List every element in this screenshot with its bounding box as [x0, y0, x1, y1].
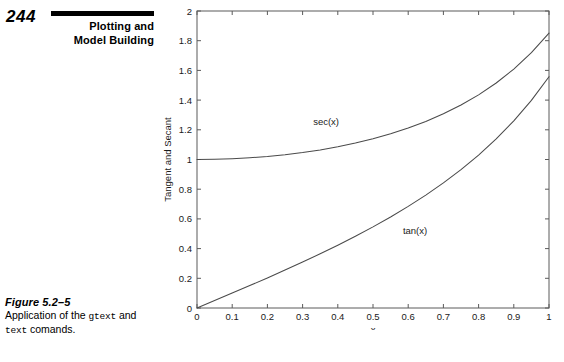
x-tick-label: 0.3 [296, 311, 309, 322]
x-tick-label: 1 [546, 311, 551, 322]
curve-secx [197, 33, 549, 159]
y-axis-ticks [197, 11, 549, 308]
y-tick-label: 1 [187, 154, 192, 165]
caption-code-gtext: gtext [88, 311, 116, 322]
figure-caption: Figure 5.2–5 Application of the gtext an… [5, 296, 155, 338]
plot-axes [197, 11, 549, 308]
y-tick-label: 2 [187, 6, 192, 17]
figure-caption-body: Application of the gtext and text comand… [5, 309, 155, 338]
x-tick-label: 0.8 [472, 311, 485, 322]
y-tick-label: 0 [187, 303, 192, 314]
caption-text-3: comands. [27, 323, 75, 335]
plot-annotations: sec(x)tan(x) [313, 116, 427, 236]
curve-tanx [197, 77, 549, 308]
x-tick-label: 0.2 [261, 311, 274, 322]
page-number: 244 [6, 8, 36, 25]
plot-svg: 00.10.20.30.40.50.60.70.80.91 00.20.40.6… [160, 0, 564, 330]
x-tick-label: 0.9 [507, 311, 520, 322]
caption-code-text: text [5, 325, 27, 336]
x-tick-label: 0 [194, 311, 199, 322]
y-tick-label: 0.4 [179, 243, 192, 254]
x-tick-label: 0.7 [437, 311, 450, 322]
running-head-line-2: Model Building [40, 33, 154, 47]
figure-plot: 00.10.20.30.40.50.60.70.80.91 00.20.40.6… [160, 0, 564, 330]
y-tick-label: 1.2 [179, 124, 192, 135]
running-head: Plotting and Model Building [40, 19, 154, 47]
running-head-line-1: Plotting and [40, 19, 154, 33]
plot-curves [197, 33, 549, 308]
header-rule [51, 11, 154, 16]
x-tick-label: 0.5 [366, 311, 379, 322]
x-axis-title: x [371, 324, 376, 330]
y-axis-title: Tangent and Secant [162, 117, 173, 202]
y-tick-label: 0.2 [179, 273, 192, 284]
y-tick-label: 1.4 [179, 95, 192, 106]
x-axis-tick-labels: 00.10.20.30.40.50.60.70.80.91 [194, 311, 551, 322]
curve-label-secx: sec(x) [313, 116, 339, 127]
x-tick-label: 0.4 [331, 311, 344, 322]
figure-caption-title: Figure 5.2–5 [5, 296, 155, 309]
x-tick-label: 0.1 [226, 311, 239, 322]
caption-text-2: and [116, 309, 136, 321]
x-axis-ticks [197, 11, 549, 308]
y-tick-label: 0.8 [179, 184, 192, 195]
x-tick-label: 0.6 [402, 311, 415, 322]
y-tick-label: 1.6 [179, 65, 192, 76]
y-tick-label: 1.8 [179, 35, 192, 46]
curve-label-tanx: tan(x) [403, 225, 427, 236]
y-tick-label: 0.6 [179, 213, 192, 224]
y-axis-tick-labels: 00.20.40.60.811.21.41.61.82 [179, 6, 192, 314]
caption-text-1: Application of the [5, 309, 88, 321]
page-header: 244 Plotting and Model Building [0, 0, 180, 60]
